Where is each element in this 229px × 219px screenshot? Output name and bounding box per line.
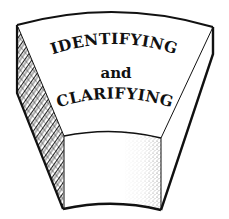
label-line-2: and bbox=[100, 64, 132, 82]
keystone-diagram: IDENTIFYING and CLARIFYING bbox=[0, 0, 229, 219]
front-face bbox=[64, 131, 161, 210]
